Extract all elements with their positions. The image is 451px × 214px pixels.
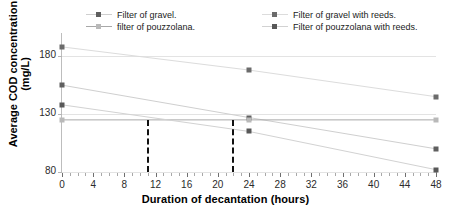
x-tick-minor: [389, 173, 390, 176]
x-tick-minor: [381, 173, 382, 176]
x-tick-major: [93, 173, 94, 177]
y-axis-title: Average COD concentration (mg/L): [7, 0, 31, 149]
x-tick-label: 16: [181, 179, 192, 190]
x-tick-label: 48: [430, 179, 441, 190]
x-tick-major: [249, 173, 250, 177]
x-tick-label: 8: [122, 179, 128, 190]
x-tick-minor: [140, 173, 141, 176]
x-tick-minor: [265, 173, 266, 176]
x-tick-minor: [420, 173, 421, 176]
x-tick-label: 36: [337, 179, 348, 190]
x-tick-major: [124, 173, 125, 177]
x-tick-minor: [350, 173, 351, 176]
x-tick-minor: [194, 173, 195, 176]
x-tick-major: [187, 173, 188, 177]
x-tick-minor: [117, 173, 118, 176]
x-tick-major: [311, 173, 312, 177]
x-tick-major: [436, 173, 437, 177]
x-tick-major: [405, 173, 406, 177]
x-tick-minor: [413, 173, 414, 176]
x-tick-label: 44: [399, 179, 410, 190]
x-tick-label: 20: [212, 179, 223, 190]
x-tick-minor: [132, 173, 133, 176]
x-tick-minor: [70, 173, 71, 176]
x-tick-minor: [210, 173, 211, 176]
x-tick-minor: [148, 173, 149, 176]
x-axis-title: Duration of decantation (hours): [0, 193, 451, 205]
x-tick-major: [343, 173, 344, 177]
x-tick-minor: [78, 173, 79, 176]
x-tick-major: [280, 173, 281, 177]
x-tick-minor: [233, 173, 234, 176]
x-tick-minor: [296, 173, 297, 176]
x-tick-minor: [304, 173, 305, 176]
x-tick-minor: [272, 173, 273, 176]
chart-figure: Filter of gravel. filter of pouzzolana. …: [0, 0, 451, 214]
x-tick-minor: [319, 173, 320, 176]
x-tick-minor: [109, 173, 110, 176]
x-tick-minor: [163, 173, 164, 176]
x-tick-minor: [366, 173, 367, 176]
x-tick-minor: [179, 173, 180, 176]
x-tick-minor: [288, 173, 289, 176]
x-tick-minor: [202, 173, 203, 176]
x-tick-major: [62, 173, 63, 177]
x-tick-minor: [358, 173, 359, 176]
x-tick-label: 12: [150, 179, 161, 190]
x-tick-minor: [327, 173, 328, 176]
x-tick-minor: [397, 173, 398, 176]
x-tick-minor: [171, 173, 172, 176]
x-tick-major: [218, 173, 219, 177]
x-tick-minor: [101, 173, 102, 176]
x-tick-major: [374, 173, 375, 177]
x-tick-minor: [85, 173, 86, 176]
x-tick-label: 28: [275, 179, 286, 190]
x-tick-label: 0: [59, 179, 65, 190]
x-tick-label: 32: [306, 179, 317, 190]
x-tick-minor: [335, 173, 336, 176]
x-tick-major: [156, 173, 157, 177]
x-tick-label: 24: [243, 179, 254, 190]
x-tick-minor: [257, 173, 258, 176]
x-tick-label: 40: [368, 179, 379, 190]
x-tick-minor: [428, 173, 429, 176]
x-tick-minor: [226, 173, 227, 176]
y-tick-label: 80: [22, 165, 56, 176]
x-tick-minor: [241, 173, 242, 176]
x-tick-labels: 04812162024283236404448: [61, 173, 437, 195]
x-tick-label: 4: [90, 179, 96, 190]
